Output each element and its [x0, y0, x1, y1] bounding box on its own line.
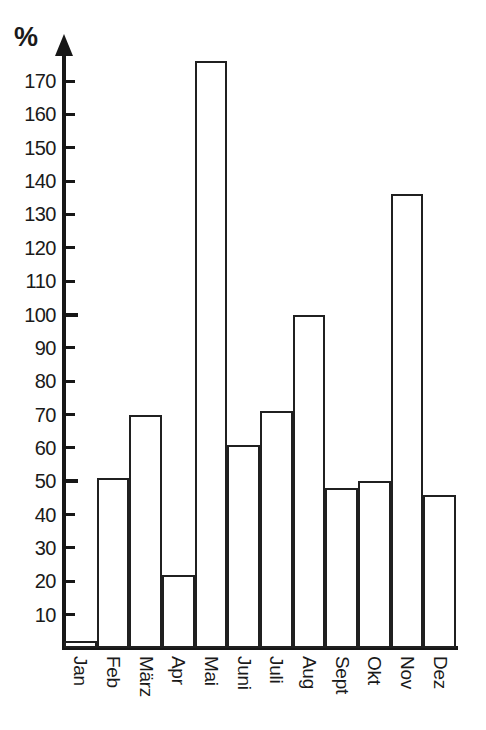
x-axis-label-dez: Dez — [423, 654, 456, 724]
x-axis-label-text: Juli — [267, 656, 286, 683]
y-tick-label: 20 — [8, 571, 56, 591]
plot-area — [64, 40, 456, 648]
y-tick-label: 120 — [8, 238, 56, 258]
bar-juni — [227, 445, 260, 648]
x-axis-label-sept: Sept — [325, 654, 358, 724]
x-axis-label-text: Mai — [201, 656, 220, 686]
y-tick-label: 130 — [8, 204, 56, 224]
x-axis-label-apr: Apr — [162, 654, 195, 724]
x-axis-label-text: Juni — [234, 656, 253, 690]
x-axis-label-text: Jan — [71, 656, 90, 686]
bar-chart: % 10203040506070809010011012013014015016… — [0, 0, 486, 730]
y-tick-label: 80 — [8, 371, 56, 391]
bar-feb — [97, 478, 130, 648]
y-tick-label: 10 — [8, 605, 56, 625]
bar-jan — [64, 641, 97, 648]
bar-apr — [162, 575, 195, 648]
y-tick-label: 170 — [8, 71, 56, 91]
y-tick-label: 110 — [8, 271, 56, 291]
x-axis-label-feb: Feb — [97, 654, 130, 724]
x-axis-label-märz: März — [129, 654, 162, 724]
x-axis-label-aug: Aug — [293, 654, 326, 724]
y-tick-label: 30 — [8, 538, 56, 558]
y-tick-label: 140 — [8, 171, 56, 191]
bar-sept — [325, 488, 358, 648]
x-axis-label-jan: Jan — [64, 654, 97, 724]
bar-mai — [195, 61, 228, 648]
y-axis-unit-label: % — [14, 24, 37, 51]
bar-okt — [358, 481, 391, 648]
x-axis-label-text: März — [136, 656, 155, 697]
y-tick-label: 90 — [8, 338, 56, 358]
x-axis-label-okt: Okt — [358, 654, 391, 724]
x-axis-label-text: Aug — [299, 656, 318, 689]
x-axis-label-nov: Nov — [391, 654, 424, 724]
x-axis-label-text: Okt — [365, 656, 384, 685]
bar-dez — [423, 495, 456, 648]
y-tick-label: 70 — [8, 405, 56, 425]
y-tick-label: 150 — [8, 138, 56, 158]
x-axis-label-text: Feb — [103, 656, 122, 688]
x-axis-labels: JanFebMärzAprMaiJuniJuliAugSeptOktNovDez — [64, 654, 456, 724]
y-tick-label: 100 — [8, 305, 56, 325]
x-axis-label-mai: Mai — [195, 654, 228, 724]
x-axis-label-text: Apr — [169, 656, 188, 685]
bar-juli — [260, 411, 293, 648]
x-axis-label-text: Nov — [397, 656, 416, 689]
x-axis-label-text: Sept — [332, 656, 351, 694]
x-axis-label-juni: Juni — [227, 654, 260, 724]
x-axis-label-text: Dez — [430, 656, 449, 689]
y-tick-label: 160 — [8, 104, 56, 124]
y-tick-label: 40 — [8, 505, 56, 525]
x-axis-label-juli: Juli — [260, 654, 293, 724]
y-tick-label: 50 — [8, 471, 56, 491]
bar-aug — [293, 315, 326, 649]
bar-märz — [129, 415, 162, 648]
bar-nov — [391, 194, 424, 648]
y-tick-label: 60 — [8, 438, 56, 458]
